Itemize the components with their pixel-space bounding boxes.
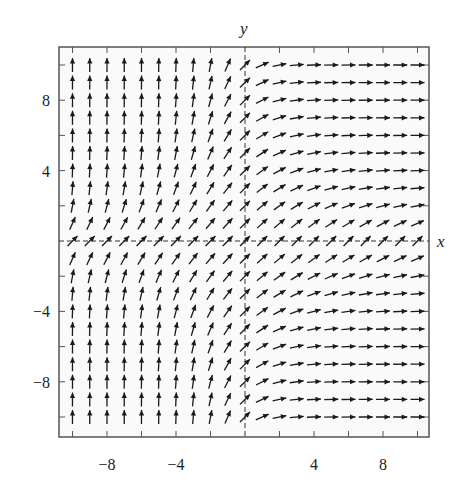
y-axis-label: y [238, 19, 248, 38]
y-tick-label: 4 [42, 163, 50, 180]
y-tick-label: −4 [33, 303, 50, 320]
x-axis-label: x [436, 232, 445, 251]
vector-field-plot: −8−44884−4−8 y x [0, 0, 464, 490]
x-tick-label: −8 [98, 456, 115, 473]
y-tick-label: 8 [42, 92, 50, 109]
x-tick-label: 4 [310, 456, 318, 473]
x-tick-label: 8 [379, 456, 387, 473]
x-tick-label: −4 [167, 456, 184, 473]
y-tick-label: −8 [33, 374, 50, 391]
